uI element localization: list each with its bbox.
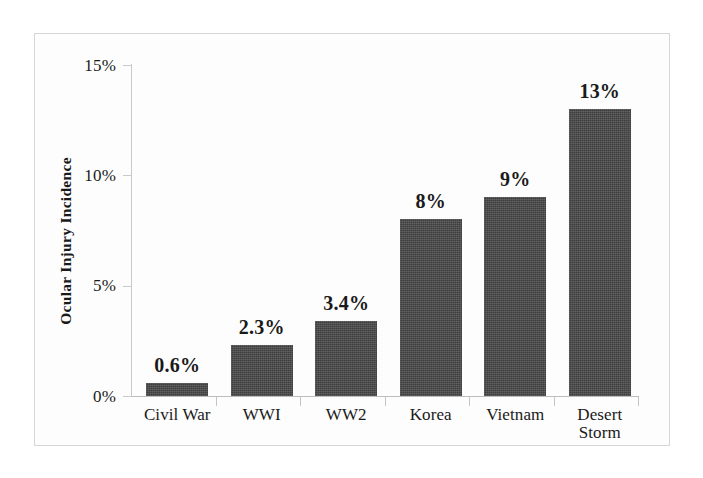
bar-group[interactable]: 13% <box>569 65 631 396</box>
bar[interactable] <box>231 345 293 396</box>
y-axis-tick-label: 15% <box>84 56 116 76</box>
bar-value-label: 3.4% <box>323 292 369 315</box>
bar-value-label: 0.6% <box>154 354 200 377</box>
y-axis-tick-label: 0% <box>93 387 116 407</box>
bar-value-label: 2.3% <box>239 316 285 339</box>
y-axis-tick: 0% <box>123 396 132 397</box>
bar-group[interactable]: 3.4% <box>315 65 377 396</box>
y-axis-tick-mark <box>123 396 132 397</box>
bar[interactable] <box>400 219 462 396</box>
bar[interactable] <box>315 321 377 396</box>
x-axis-category-label: WWI <box>220 406 305 424</box>
chart-figure-frame: Ocular Injury Incidence 0%5%10%15% 0.6%2… <box>34 33 670 446</box>
x-axis-category-label: Korea <box>389 406 474 424</box>
y-axis-title-label: Ocular Injury Incidence <box>57 157 75 325</box>
bar[interactable] <box>569 109 631 396</box>
x-axis-tick-mark <box>385 397 386 406</box>
plot-area: 0.6%2.3%3.4%8%9%13% <box>131 65 638 396</box>
x-axis-category-label: Civil War <box>135 406 220 424</box>
bar-group[interactable]: 2.3% <box>231 65 293 396</box>
bar[interactable] <box>146 383 208 396</box>
bar-value-label: 8% <box>416 190 446 213</box>
y-axis-tick-label: 10% <box>84 166 116 186</box>
bar-group[interactable]: 8% <box>400 65 462 396</box>
x-axis-category-label: WW2 <box>304 406 389 424</box>
bar-value-label: 9% <box>500 168 530 191</box>
y-axis-title: Ocular Injury Incidence <box>51 34 81 447</box>
bar[interactable] <box>484 197 546 396</box>
y-axis-tick-label: 5% <box>93 276 116 296</box>
bar-group[interactable]: 0.6% <box>146 65 208 396</box>
x-axis-category-label: Vietnam <box>473 406 558 424</box>
x-axis-tick-mark <box>300 397 301 406</box>
x-axis-tick-mark <box>216 397 217 406</box>
x-axis-tick-mark <box>638 397 639 406</box>
x-axis-tick-mark <box>554 397 555 406</box>
x-axis-category-label: Desert Storm <box>558 406 643 443</box>
x-axis-tick-mark <box>469 397 470 406</box>
bar-value-label: 13% <box>579 80 620 103</box>
bar-group[interactable]: 9% <box>484 65 546 396</box>
